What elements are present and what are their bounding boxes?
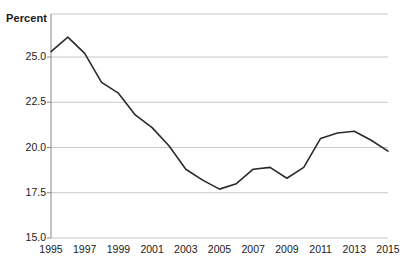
y-tick-label: 20.0 <box>12 141 46 153</box>
y-tick-label: 15.0 <box>12 231 46 243</box>
x-tick-label: 2001 <box>135 243 169 255</box>
x-tick-label: 2009 <box>270 243 304 255</box>
x-tick-label: 2003 <box>169 243 203 255</box>
x-tick-label: 2011 <box>304 243 338 255</box>
chart-plot-area <box>0 0 404 265</box>
x-tick-label: 1997 <box>68 243 102 255</box>
y-tick-label: 25.0 <box>12 50 46 62</box>
x-tick-label: 1999 <box>101 243 135 255</box>
y-tick-label: 22.5 <box>12 95 46 107</box>
x-tick-label: 2007 <box>236 243 270 255</box>
x-tick-label: 2015 <box>371 243 404 255</box>
x-tick-label: 2005 <box>203 243 237 255</box>
x-tick-label: 2013 <box>337 243 371 255</box>
x-tick-label: 1995 <box>34 243 68 255</box>
gridlines <box>51 14 388 238</box>
y-axis-ticks <box>47 57 51 238</box>
data-series-line <box>51 37 388 189</box>
chart-container: Percent 15.017.520.022.525.0 19951997199… <box>0 0 404 265</box>
y-tick-label: 17.5 <box>12 186 46 198</box>
